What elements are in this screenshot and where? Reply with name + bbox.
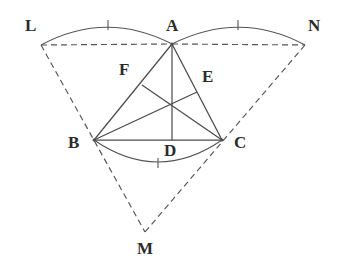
point-label-N: N xyxy=(308,17,320,34)
dashed-group xyxy=(41,44,305,232)
geometry-figure: A B C D E F L N M xyxy=(0,0,347,280)
point-label-D: D xyxy=(164,142,176,159)
vertex-dot-C xyxy=(221,139,224,142)
point-label-A: A xyxy=(166,17,178,34)
side-AB xyxy=(94,44,172,140)
arc-LA xyxy=(41,27,172,45)
point-label-E: E xyxy=(202,68,213,85)
chord-LA xyxy=(41,44,172,45)
ray-N-to-M xyxy=(145,45,305,232)
point-label-B: B xyxy=(68,134,79,151)
median-group xyxy=(94,44,222,140)
vertex-dot-A xyxy=(171,43,174,46)
triangle-group xyxy=(94,44,222,140)
ray-L-to-M xyxy=(41,45,145,232)
median-BE xyxy=(94,92,197,140)
point-label-M: M xyxy=(137,240,153,257)
chord-AN xyxy=(172,44,305,45)
geometry-canvas xyxy=(0,0,347,280)
vertex-dot-B xyxy=(93,139,96,142)
point-label-C: C xyxy=(234,134,246,151)
point-label-L: L xyxy=(25,17,36,34)
point-label-F: F xyxy=(119,61,129,78)
vertex-dot-group xyxy=(93,43,224,142)
